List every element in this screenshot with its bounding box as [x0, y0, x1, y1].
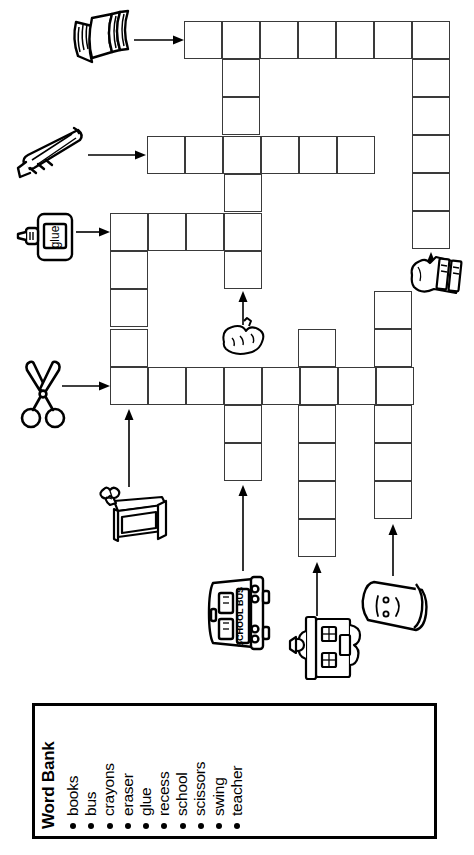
grid-cell[interactable] [374, 481, 412, 519]
grid-cell[interactable] [299, 136, 337, 174]
grid-cell[interactable] [110, 289, 148, 327]
grid-cell[interactable] [186, 367, 224, 405]
clue-arrow-books [134, 33, 184, 47]
word-bank-item: swing [210, 777, 227, 829]
grid-cell[interactable] [336, 21, 374, 59]
grid-cell[interactable] [222, 97, 260, 135]
bullet-icon [124, 823, 130, 829]
grid-cell[interactable] [224, 174, 262, 212]
bullet-icon [70, 823, 76, 829]
clue-arrow-crayons [88, 148, 146, 162]
grid-cell[interactable] [110, 367, 148, 405]
word-bank-item: glue [137, 787, 154, 829]
grid-cell[interactable] [412, 21, 450, 59]
grid-cell[interactable] [374, 291, 412, 329]
scissors-icon [12, 358, 74, 430]
grid-cell[interactable] [261, 136, 299, 174]
word-bank-word: glue [137, 787, 154, 816]
svg-text:SCHOOL BUS: SCHOOL BUS [235, 587, 245, 647]
word-bank-word: books [64, 776, 81, 816]
grid-cell[interactable] [224, 443, 262, 481]
grid-cell[interactable] [298, 329, 336, 367]
school-bus-icon: SCHOOL BUS [203, 571, 271, 655]
word-bank-item: scissors [192, 762, 209, 829]
school-building-icon [288, 613, 364, 683]
teacher-desk-icon [96, 487, 172, 551]
grid-cell[interactable] [298, 405, 336, 443]
grid-cell[interactable] [298, 21, 336, 59]
grid-cell[interactable] [110, 251, 148, 289]
bullet-icon [197, 823, 203, 829]
grid-cell[interactable] [298, 443, 336, 481]
word-bank-item: recess [156, 772, 173, 829]
grid-cell[interactable] [412, 211, 450, 249]
grid-cell[interactable] [338, 367, 376, 405]
grid-cell[interactable] [185, 136, 223, 174]
swing-icon [356, 576, 430, 634]
word-bank-item: books [64, 776, 81, 829]
grid-cell[interactable] [110, 213, 148, 251]
grid-cell[interactable] [374, 21, 412, 59]
grid-cell[interactable] [148, 367, 186, 405]
clue-arrow-swing [386, 524, 400, 576]
word-bank-item: teacher [228, 766, 245, 829]
bullet-icon [179, 823, 185, 829]
bullet-icon [106, 823, 112, 829]
grid-cell[interactable] [300, 367, 338, 405]
grid-cell[interactable] [376, 367, 414, 405]
bullet-icon [161, 823, 167, 829]
word-bank-word: eraser [119, 773, 136, 816]
grid-cell[interactable] [374, 329, 412, 367]
grid-cell[interactable] [148, 213, 186, 251]
grid-cell[interactable] [374, 443, 412, 481]
grid-cell[interactable] [262, 367, 300, 405]
grid-cell[interactable] [223, 136, 261, 174]
word-bank-item: school [174, 772, 191, 829]
word-bank-word: swing [210, 777, 227, 816]
grid-cell[interactable] [186, 213, 224, 251]
grid-cell[interactable] [224, 213, 262, 251]
grid-cell[interactable] [412, 135, 450, 173]
clue-arrow-glue [76, 225, 110, 239]
bullet-icon [88, 823, 94, 829]
bullet-icon [216, 823, 222, 829]
grid-cell[interactable] [222, 59, 260, 97]
bullet-icon [234, 823, 240, 829]
grid-cell[interactable] [298, 481, 336, 519]
eraser-icon [218, 318, 266, 362]
clue-arrow-bus [236, 485, 250, 571]
word-bank-item: eraser [119, 773, 136, 829]
grid-cell[interactable] [412, 173, 450, 211]
grid-cell[interactable] [222, 21, 260, 59]
grid-cell[interactable] [224, 251, 262, 289]
grid-cell[interactable] [412, 97, 450, 135]
word-bank-word: scissors [192, 762, 209, 816]
word-bank-word: bus [83, 792, 100, 816]
word-bank-word: crayons [101, 763, 118, 816]
grid-cell[interactable] [374, 405, 412, 443]
clue-arrow-school [310, 562, 324, 616]
word-bank-item: crayons [101, 763, 118, 829]
grid-cell[interactable] [147, 136, 185, 174]
glue-bottle-icon: glue [16, 206, 78, 268]
grid-cell[interactable] [298, 519, 336, 557]
worksheet-canvas: glue [0, 0, 474, 855]
recess-books-icon [408, 245, 470, 303]
word-bank-box: Word Bank books bus crayons eraser glue [32, 703, 437, 839]
bullet-icon [143, 823, 149, 829]
word-bank-word: school [174, 772, 191, 816]
svg-text:glue: glue [48, 225, 62, 248]
books-stack-icon [70, 8, 134, 70]
grid-cell[interactable] [260, 21, 298, 59]
grid-cell[interactable] [224, 367, 262, 405]
word-bank-inner: Word Bank books bus crayons eraser glue [40, 709, 430, 833]
word-bank-word: teacher [228, 766, 245, 816]
crayons-icon [14, 124, 88, 184]
clue-arrow-teacher [122, 409, 136, 487]
grid-cell[interactable] [224, 405, 262, 443]
grid-cell[interactable] [184, 21, 222, 59]
word-bank-title: Word Bank [40, 741, 58, 829]
grid-cell[interactable] [110, 329, 148, 367]
grid-cell[interactable] [412, 59, 450, 97]
grid-cell[interactable] [337, 136, 375, 174]
